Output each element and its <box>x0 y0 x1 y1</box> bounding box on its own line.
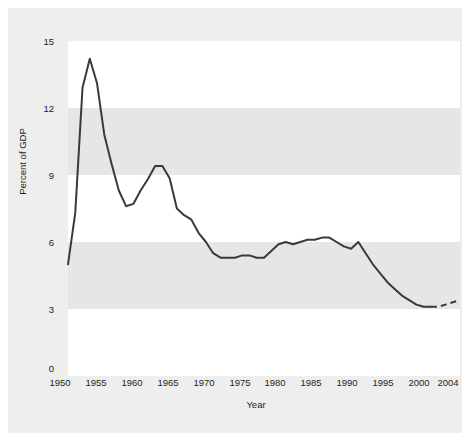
xtick-1950: 1950 <box>40 378 80 388</box>
x-axis-label: Year <box>60 399 452 410</box>
ytick-12: 12 <box>8 104 54 114</box>
y-axis-label: Percent of GDP <box>17 102 28 222</box>
xtick-1995: 1995 <box>363 378 403 388</box>
xtick-1990: 1990 <box>327 378 367 388</box>
defense-spending-line-dashed-projection <box>431 300 460 307</box>
xtick-1980: 1980 <box>255 378 295 388</box>
figure-panel: 15 12 9 6 3 0 Percent of GDP 1950 1955 1… <box>8 8 462 433</box>
xtick-1985: 1985 <box>291 378 331 388</box>
ytick-6: 6 <box>8 238 54 248</box>
data-line-group <box>68 41 460 376</box>
ytick-15: 15 <box>8 37 54 47</box>
xtick-1965: 1965 <box>148 378 188 388</box>
ytick-3: 3 <box>8 305 54 315</box>
ytick-9: 9 <box>8 171 54 181</box>
xtick-1955: 1955 <box>76 378 116 388</box>
xtick-1975: 1975 <box>220 378 260 388</box>
defense-spending-line-solid <box>68 59 431 307</box>
chart-page: 15 12 9 6 3 0 Percent of GDP 1950 1955 1… <box>0 0 472 442</box>
ytick-0: 0 <box>8 364 54 374</box>
xtick-2004: 2004 <box>428 378 468 388</box>
plot-area <box>68 41 460 376</box>
xtick-1970: 1970 <box>184 378 224 388</box>
xtick-1960: 1960 <box>112 378 152 388</box>
